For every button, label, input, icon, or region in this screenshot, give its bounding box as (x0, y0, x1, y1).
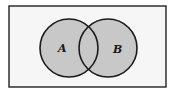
venn-diagram: A B (0, 0, 177, 92)
shaded-union (40, 19, 137, 77)
set-b-label: B (112, 43, 122, 56)
set-a-label: A (57, 42, 67, 55)
